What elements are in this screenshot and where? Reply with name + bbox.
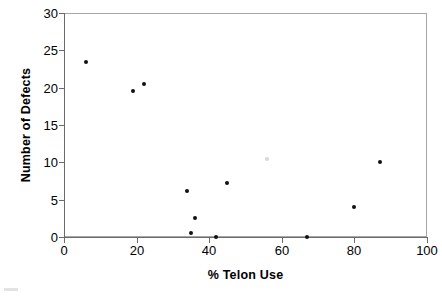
x-tick-label: 60 xyxy=(262,244,302,257)
data-point xyxy=(214,235,218,239)
plot-area xyxy=(64,13,427,237)
x-tick-label: 80 xyxy=(334,244,374,257)
y-axis-title: Number of Defects xyxy=(19,45,33,205)
page-artifact xyxy=(4,288,18,291)
data-point xyxy=(265,157,269,161)
data-point xyxy=(305,235,309,239)
y-tick xyxy=(59,50,64,51)
x-axis-line xyxy=(64,237,428,238)
x-tick-label: 40 xyxy=(189,244,229,257)
x-tick-label: 100 xyxy=(407,244,442,257)
y-tick xyxy=(59,162,64,163)
x-tick-label: 20 xyxy=(117,244,157,257)
data-point xyxy=(142,82,146,86)
y-tick-label: 0 xyxy=(18,231,58,244)
y-tick-label: 30 xyxy=(18,7,58,20)
y-tick xyxy=(59,13,64,14)
y-tick xyxy=(59,125,64,126)
y-tick xyxy=(59,88,64,89)
y-tick xyxy=(59,200,64,201)
data-point xyxy=(84,60,88,64)
x-tick-label: 0 xyxy=(44,244,84,257)
y-axis-line xyxy=(64,13,65,238)
x-axis-title: % Telon Use xyxy=(64,268,427,282)
